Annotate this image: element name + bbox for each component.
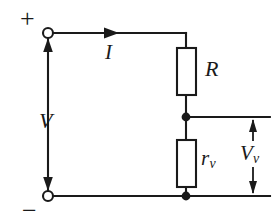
current-label: I	[105, 42, 112, 63]
measured-voltage-arrowhead-down	[249, 181, 257, 194]
measured-voltage-arrowhead-up	[249, 119, 257, 132]
junction-bottom-dot	[182, 192, 191, 201]
resistor-R-label: R	[205, 58, 218, 80]
measured-voltage-label: Vv	[240, 143, 259, 164]
resistor-rv-label: rv	[201, 148, 215, 169]
current-arrowhead	[104, 28, 119, 39]
junction-middle-dot	[182, 113, 191, 122]
circuit-diagram: + − V I R rv Vv	[0, 0, 278, 224]
resistor-rv-label-base: r	[201, 146, 209, 170]
resistor-rv-label-subscript: v	[209, 156, 215, 171]
terminal-negative-circle	[43, 191, 53, 201]
resistor-rv-body	[177, 140, 196, 187]
resistor-R-body	[177, 48, 196, 95]
terminal-negative-sign: −	[22, 198, 37, 224]
source-voltage-arrowhead-up	[43, 38, 53, 52]
source-voltage-label: V	[39, 110, 52, 132]
terminal-positive-circle	[43, 28, 53, 38]
measured-voltage-label-subscript: v	[253, 151, 259, 166]
source-voltage-arrowhead-down	[43, 177, 53, 191]
measured-voltage-label-base: V	[240, 141, 253, 165]
terminal-positive-sign: +	[20, 6, 35, 32]
